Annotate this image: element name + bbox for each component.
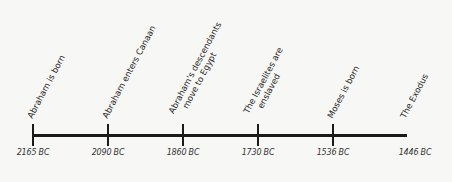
date-label: 1730 BC [242, 148, 275, 157]
tick-marker [32, 124, 34, 146]
date-label: 1860 BC [167, 148, 200, 157]
timeline: 2165 BC Abraham is born 2090 BC Abraham … [0, 0, 452, 182]
event-label: Abraham's descendants move to Egypt [166, 20, 232, 120]
event-label: The Israelites are enslaved [241, 46, 293, 120]
event-label: Abraham is born [25, 53, 67, 120]
date-label: 2090 BC [92, 148, 125, 157]
event-label-line: Abraham enters Canaan [100, 24, 157, 120]
tick-marker [332, 124, 334, 146]
event-label: The Exodus [398, 72, 430, 120]
date-label: 2165 BC [17, 148, 50, 157]
event-label-line: The Exodus [398, 72, 430, 120]
event-label-line: Moses is born [325, 64, 361, 120]
timeline-axis [33, 134, 407, 137]
tick-marker [182, 124, 184, 146]
event-label: Abraham enters Canaan [100, 24, 157, 120]
event-label: Moses is born [325, 64, 361, 120]
date-label: 1536 BC [317, 148, 350, 157]
event-label-line: Abraham is born [25, 53, 67, 120]
tick-marker [107, 124, 109, 146]
event-label-line: Abraham's descendants [166, 20, 223, 115]
tick-marker [257, 124, 259, 146]
date-label: 1446 BC [399, 148, 432, 157]
